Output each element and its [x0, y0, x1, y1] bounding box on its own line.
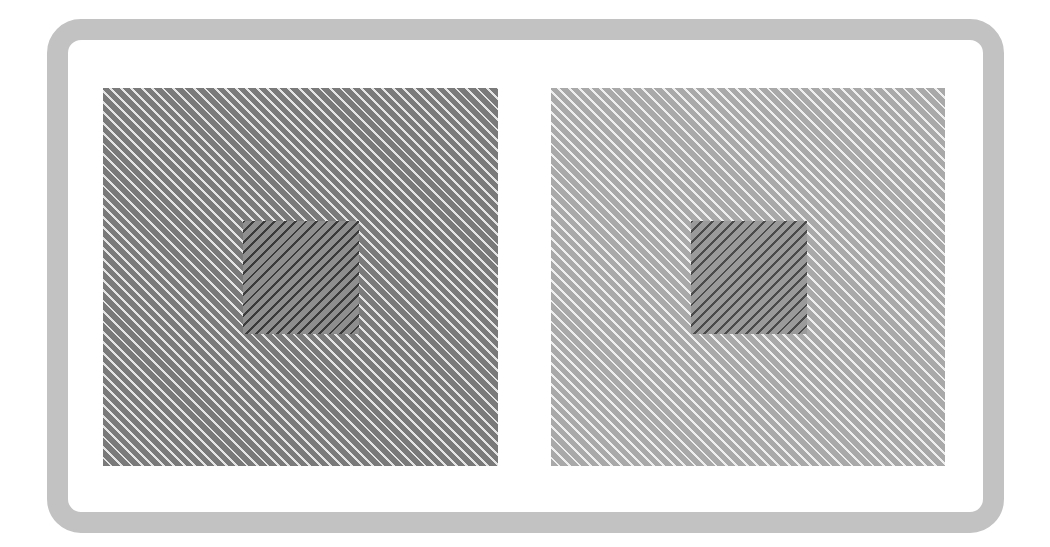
right-inner-square [691, 221, 807, 334]
left-panel [103, 88, 498, 466]
right-panel [551, 88, 945, 466]
left-inner-square [243, 221, 359, 334]
